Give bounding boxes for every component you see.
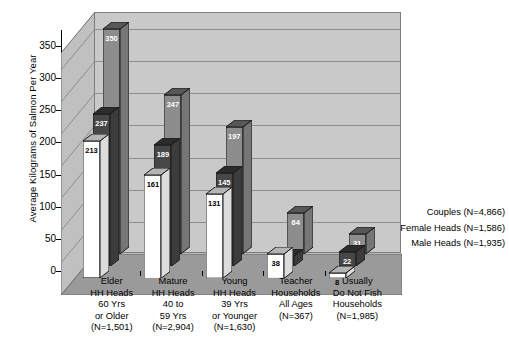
category-label-line: or Younger bbox=[204, 311, 265, 323]
category-label-line: (N=367) bbox=[265, 311, 326, 323]
category-label-line: Do Not Fish bbox=[327, 288, 388, 300]
category-label-line: Young bbox=[204, 276, 265, 288]
legend: Couples (N=4,866)Female Heads (N=1,586)M… bbox=[305, 205, 505, 252]
x-axis-category-labels: ElderHH Heads60 Yrsor Older(N=1,501)Matu… bbox=[61, 276, 401, 353]
bar-solid bbox=[83, 134, 109, 278]
y-tick-50: 50 bbox=[45, 235, 56, 243]
category-label-line: Mature bbox=[142, 276, 203, 288]
category-label-line: Households bbox=[265, 288, 326, 300]
category-label-line: HH Heads bbox=[81, 288, 142, 300]
category-label-line: Teacher bbox=[265, 276, 326, 288]
category-label-line: 59 Yrs bbox=[142, 311, 203, 323]
category-separator-4 bbox=[325, 271, 326, 276]
category-separator-2 bbox=[202, 271, 203, 276]
category-separator-3 bbox=[263, 271, 264, 276]
bar-group-container: 35023721324718916119714513164163831228 bbox=[61, 12, 401, 295]
y-axis-tick-labels: 350300250200150100500 bbox=[22, 0, 56, 353]
bar-solid bbox=[267, 247, 293, 278]
category-label-line: All Ages bbox=[265, 299, 326, 311]
bar-solid bbox=[144, 168, 170, 278]
category-label-line: Elder bbox=[81, 276, 142, 288]
bar-solid bbox=[206, 187, 232, 278]
category-label-line: HH Heads bbox=[142, 288, 203, 300]
bar-2-2: 131 bbox=[206, 187, 232, 278]
category-label-line: (N=1,985) bbox=[327, 311, 388, 323]
category-label-line: (N=1,501) bbox=[81, 322, 142, 334]
category-label-1: MatureHH Heads40 to59 Yrs(N=2,904) bbox=[142, 276, 203, 334]
legend-item-1: Female Heads (N=1,586) bbox=[305, 221, 505, 237]
category-label-line: 40 to bbox=[142, 299, 203, 311]
category-label-line: Usually bbox=[327, 276, 388, 288]
chart-root: Average Kilograms of Salmon Per Year 350… bbox=[0, 0, 509, 353]
category-label-line: (N=1,630) bbox=[204, 322, 265, 334]
category-label-2: YoungHH Heads39 Yrsor Younger(N=1,630) bbox=[204, 276, 265, 334]
category-label-0: ElderHH Heads60 Yrsor Older(N=1,501) bbox=[81, 276, 142, 334]
y-tick-150: 150 bbox=[39, 171, 56, 179]
legend-item-2: Male Heads (N=1,935) bbox=[305, 236, 505, 252]
category-label-3: TeacherHouseholdsAll Ages(N=367) bbox=[265, 276, 326, 322]
category-label-4: UsuallyDo Not FishHouseholds(N=1,985) bbox=[327, 276, 388, 322]
bar-1-2: 161 bbox=[144, 168, 170, 278]
category-label-line: 60 Yrs bbox=[81, 299, 142, 311]
category-label-line: or Older bbox=[81, 311, 142, 323]
category-label-line: (N=2,904) bbox=[142, 322, 203, 334]
category-label-line: 39 Yrs bbox=[204, 299, 265, 311]
bar-3-2: 38 bbox=[267, 247, 293, 278]
y-tick-300: 300 bbox=[39, 74, 56, 82]
category-label-line: HH Heads bbox=[204, 288, 265, 300]
y-tick-200: 200 bbox=[39, 138, 56, 146]
y-tick-100: 100 bbox=[39, 203, 56, 211]
category-separator-1 bbox=[140, 271, 141, 276]
bar-0-2: 213 bbox=[83, 134, 109, 278]
legend-item-0: Couples (N=4,866) bbox=[305, 205, 505, 221]
category-label-line: Households bbox=[327, 299, 388, 311]
y-tick-350: 350 bbox=[39, 42, 56, 50]
y-tick-250: 250 bbox=[39, 106, 56, 114]
